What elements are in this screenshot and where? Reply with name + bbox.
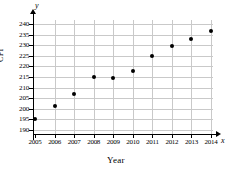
gridline-horizontal (33, 88, 213, 89)
plot-area (33, 20, 213, 134)
gridline-horizontal (33, 66, 213, 67)
y-axis-tick (29, 88, 34, 89)
y-axis-tick-label: 210 (3, 85, 29, 92)
data-point (189, 37, 193, 41)
data-point (131, 69, 135, 73)
gridline-vertical (55, 20, 56, 134)
gridline-horizontal (33, 35, 213, 36)
y-axis-tick-label: 190 (3, 127, 29, 134)
y-axis-tick (29, 35, 34, 36)
y-axis-tick-label: 225 (3, 53, 29, 60)
y-axis-tick-label: 235 (3, 32, 29, 39)
y-axis-tick-label: 200 (3, 106, 29, 113)
y-axis-tick-label: 220 (3, 63, 29, 70)
gridline-horizontal (33, 109, 213, 110)
y-axis-tick (29, 56, 34, 57)
gridline-horizontal (33, 130, 213, 131)
gridline-horizontal (33, 24, 213, 25)
y-axis-tick-label: 215 (3, 74, 29, 81)
y-axis-tick-label: 240 (3, 21, 29, 28)
gridline-vertical (74, 20, 75, 134)
data-point (111, 76, 115, 80)
gridline-vertical (152, 20, 153, 134)
y-axis-tick (29, 109, 34, 110)
y-axis-tick (29, 98, 34, 99)
data-point (170, 44, 174, 48)
y-axis-tick-label: 205 (3, 95, 29, 102)
y-axis-tick (29, 45, 34, 46)
cpi-scatter-chart: 190195200205210215220225230235240 200520… (0, 0, 232, 173)
x-axis-line (33, 134, 217, 135)
gridline-horizontal (33, 56, 213, 57)
x-axis-title: Year (0, 155, 232, 165)
y-axis-tick (29, 77, 34, 78)
y-axis-tick-label: 230 (3, 42, 29, 49)
data-point (72, 92, 76, 96)
y-axis-tick-label: 195 (3, 116, 29, 123)
data-point (92, 75, 96, 79)
data-point (150, 54, 154, 58)
data-point (53, 104, 57, 108)
gridline-horizontal (33, 98, 213, 99)
y-axis-tick (29, 66, 34, 67)
gridline-horizontal (33, 119, 213, 120)
y-axis-tick (29, 119, 34, 120)
y-axis-tick (29, 130, 34, 131)
gridline-horizontal (33, 77, 213, 78)
gridline-vertical (172, 20, 173, 134)
y-axis-tick (29, 24, 34, 25)
y-axis-variable-label: y (35, 1, 39, 10)
gridline-horizontal (33, 45, 213, 46)
y-axis-title: CPI (0, 49, 5, 62)
gridline-vertical (211, 20, 212, 134)
x-axis-variable-label: x (221, 136, 225, 145)
gridline-vertical (133, 20, 134, 134)
data-point (209, 29, 213, 33)
